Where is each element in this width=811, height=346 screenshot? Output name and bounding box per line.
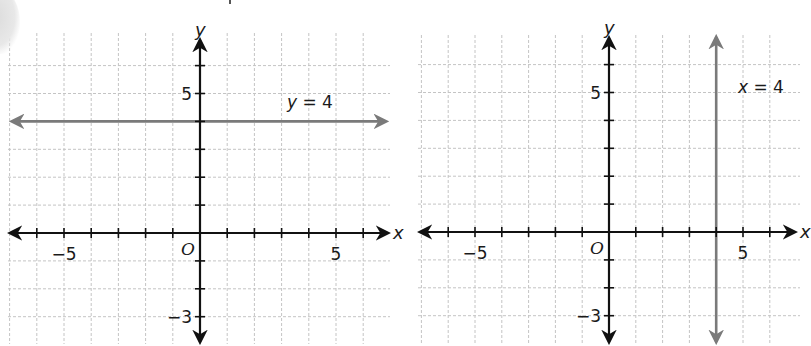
plot-horizontal-line-y-equals-4: −555−3xyOy = 4 — [8, 19, 404, 344]
plot-vertical-line-x-equals-4: −555−3xyOx = 4 — [418, 17, 811, 344]
x-tick-label: −5 — [51, 244, 76, 264]
x-tick-label: 5 — [738, 243, 749, 263]
x-axis-label: x — [799, 221, 811, 242]
y-tick-label: −3 — [167, 307, 192, 327]
y-axis-label: y — [194, 19, 206, 40]
y-axis-label: y — [603, 17, 615, 38]
y-tick-label: 5 — [181, 84, 192, 104]
coordinate-planes: −555−3xyOy = 4 −555−3xyOx = 4 — [0, 0, 811, 346]
origin-label: O — [181, 239, 195, 259]
origin-label: O — [590, 238, 604, 258]
y-tick-label: −3 — [576, 306, 601, 326]
x-tick-label: 5 — [331, 244, 342, 264]
equation-label: y = 4 — [286, 92, 333, 112]
x-axis-label: x — [392, 222, 404, 243]
figure: −555−3xyOy = 4 −555−3xyOx = 4 — [0, 0, 811, 346]
equation-label: x = 4 — [737, 77, 784, 97]
x-tick-label: −5 — [462, 243, 487, 263]
cropped-text-fragment — [229, 0, 231, 4]
y-tick-label: 5 — [590, 83, 601, 103]
